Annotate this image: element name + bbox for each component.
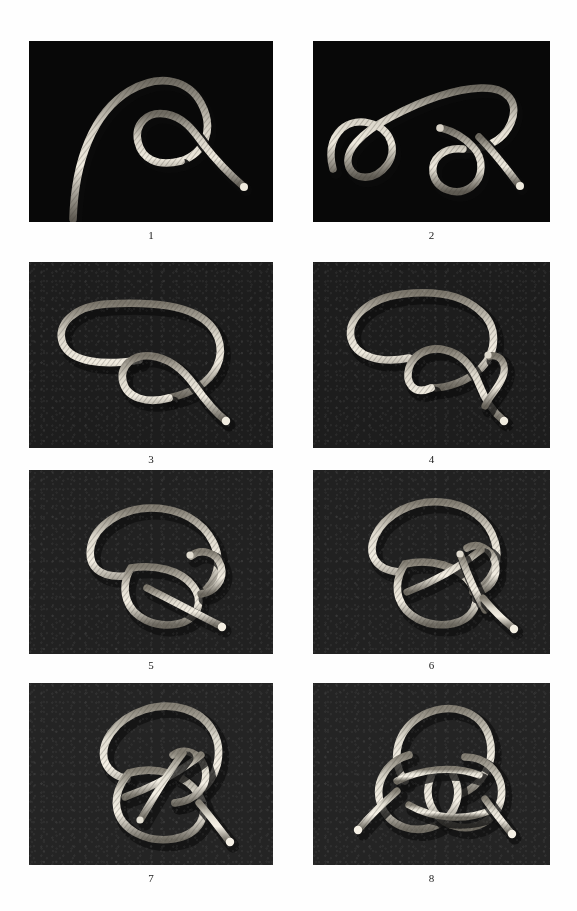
- panel-6-caption: 6: [313, 658, 550, 672]
- knot-step-panel-5: [29, 470, 273, 654]
- panel-2-caption: 2: [313, 228, 550, 242]
- knot-step-panel-3: [29, 262, 273, 448]
- knot-photo-4: [313, 262, 550, 448]
- panel-4-caption: 4: [313, 452, 550, 466]
- panel-7-caption: 7: [29, 871, 273, 885]
- knot-step-panel-2: [313, 41, 550, 222]
- knot-step-panel-4: [313, 262, 550, 448]
- knot-photo-5: [29, 470, 273, 654]
- knot-photo-2: [313, 41, 550, 222]
- panel-3-caption: 3: [29, 452, 273, 466]
- knot-photo-7: [29, 683, 273, 865]
- panel-8-caption: 8: [313, 871, 550, 885]
- figure-sheet: 1: [0, 0, 577, 911]
- knot-step-panel-6: [313, 470, 550, 654]
- knot-photo-3: [29, 262, 273, 448]
- knot-step-panel-7: [29, 683, 273, 865]
- knot-step-panel-8: [313, 683, 550, 865]
- knot-step-panel-1: [29, 41, 273, 222]
- knot-photo-6: [313, 470, 550, 654]
- panel-1-caption: 1: [29, 228, 273, 242]
- knot-photo-1: [29, 41, 273, 222]
- panel-5-caption: 5: [29, 658, 273, 672]
- knot-photo-8: [313, 683, 550, 865]
